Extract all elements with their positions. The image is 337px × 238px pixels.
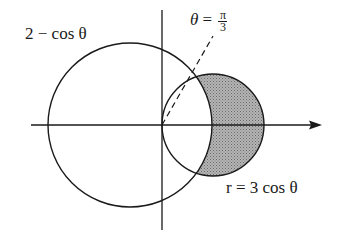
outer-curve-label: 2 − cos θ [25,24,87,44]
ray-label-eq: = [203,10,213,29]
ray-label-fraction: π 3 [218,10,227,33]
outer-curve-label-text: 2 − cos θ [25,24,87,43]
ray-label-theta: θ [190,10,198,29]
ray-label: θ = π 3 [190,10,227,33]
ray-label-den: 3 [220,22,226,33]
inner-curve-label: r = 3 cos θ [226,178,298,198]
inner-curve-label-text: r = 3 cos θ [226,178,298,197]
